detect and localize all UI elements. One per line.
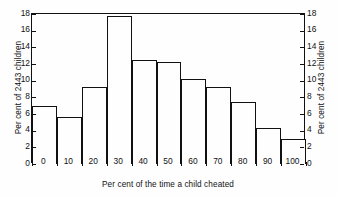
y-axis-tick-right	[300, 131, 304, 132]
x-axis-tick-label: 50	[155, 156, 181, 166]
y-axis-tick-left	[32, 147, 36, 148]
y-axis-tick-label-left: 16	[8, 24, 30, 34]
y-axis-tick-label-left: 10	[8, 74, 30, 84]
y-axis-tick-left	[32, 81, 36, 82]
y-axis-tick-label-right: 8	[307, 91, 329, 101]
y-axis-label-right: Per cent of 2443 children	[317, 18, 326, 158]
y-axis-tick-label-right: 12	[307, 58, 329, 68]
y-axis-tick-left	[32, 31, 36, 32]
x-axis-tick-label: 30	[105, 156, 131, 166]
y-axis-tick-right	[300, 114, 304, 115]
y-axis-tick-label-right: 6	[307, 108, 329, 118]
y-axis-tick-left	[32, 114, 36, 115]
x-axis-tick-label: 70	[205, 156, 231, 166]
histogram-bar	[157, 62, 182, 165]
y-axis-tick-label-right: 14	[307, 41, 329, 51]
plot-area	[31, 13, 305, 163]
histogram-bar	[132, 60, 157, 164]
x-axis-tick-label: 0	[30, 156, 56, 166]
y-axis-tick-label-left: 0	[8, 158, 30, 168]
y-axis-tick-label-left: 14	[8, 41, 30, 51]
y-axis-label-left: Per cent of 2443 children	[14, 18, 23, 158]
bar-series	[32, 14, 304, 162]
y-axis-tick-label-left: 12	[8, 58, 30, 68]
x-axis-tick-label: 80	[230, 156, 256, 166]
y-axis-tick-right	[300, 47, 304, 48]
x-axis-tick-label: 10	[55, 156, 81, 166]
y-axis-tick-label-left: 2	[8, 141, 30, 151]
y-axis-tick-right	[300, 64, 304, 65]
y-axis-tick-left	[32, 131, 36, 132]
y-axis-tick-label-left: 8	[8, 91, 30, 101]
y-axis-tick-label-right: 0	[307, 158, 329, 168]
y-axis-tick-label-left: 6	[8, 108, 30, 118]
y-axis-tick-left	[32, 14, 36, 15]
y-axis-tick-right	[300, 31, 304, 32]
y-axis-tick-label-right: 4	[307, 124, 329, 134]
y-axis-tick-left	[32, 97, 36, 98]
x-axis-label: Per cent of the time a child cheated	[31, 180, 305, 189]
y-axis-tick-label-left: 4	[8, 124, 30, 134]
y-axis-tick-right	[300, 97, 304, 98]
x-axis-tick-label: 90	[255, 156, 281, 166]
y-axis-tick-right	[300, 81, 304, 82]
y-axis-tick-label-right: 2	[307, 141, 329, 151]
y-axis-tick-label-right: 18	[307, 8, 329, 18]
x-axis-tick-label: 100	[280, 156, 306, 166]
histogram-bar	[107, 16, 132, 164]
histogram-bar	[206, 87, 231, 165]
y-axis-tick-right	[300, 147, 304, 148]
y-axis-tick-right	[300, 14, 304, 15]
x-axis-tick-label: 60	[180, 156, 206, 166]
histogram-figure: Per cent of 2443 children Per cent of 24…	[0, 0, 337, 198]
y-axis-tick-label-right: 16	[307, 24, 329, 34]
y-axis-tick-label-right: 10	[307, 74, 329, 84]
histogram-bar	[181, 79, 206, 164]
x-axis-tick-label: 20	[80, 156, 106, 166]
histogram-bar	[82, 87, 107, 165]
y-axis-tick-label-left: 18	[8, 8, 30, 18]
y-axis-tick-left	[32, 64, 36, 65]
x-axis-tick-label: 40	[130, 156, 156, 166]
y-axis-tick-left	[32, 47, 36, 48]
histogram-bar	[231, 102, 256, 164]
